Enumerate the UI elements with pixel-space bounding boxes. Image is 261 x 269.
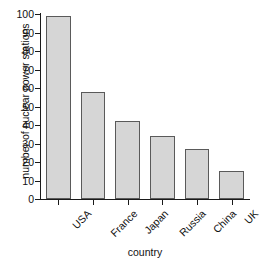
x-axis-label-uk: UK bbox=[242, 208, 260, 226]
bar-usa bbox=[46, 16, 71, 199]
y-axis-tick bbox=[35, 125, 41, 126]
x-axis-label-japan: Japan bbox=[142, 208, 170, 236]
bar-russia bbox=[150, 136, 175, 199]
x-axis-tick bbox=[58, 200, 59, 205]
y-axis-tick-label: 50 bbox=[1, 102, 34, 113]
y-axis-tick bbox=[35, 51, 41, 52]
x-axis-tick bbox=[128, 200, 129, 205]
x-axis-title: country bbox=[41, 246, 249, 258]
x-axis-label-russia: Russia bbox=[178, 208, 208, 238]
y-axis-tick-label: 90 bbox=[1, 28, 34, 39]
x-axis-tick bbox=[93, 200, 94, 205]
bar-uk bbox=[219, 171, 244, 199]
bar-france bbox=[81, 92, 106, 199]
x-axis-tick bbox=[162, 200, 163, 205]
y-axis-tick bbox=[35, 14, 41, 15]
y-axis-tick bbox=[35, 33, 41, 34]
y-axis-tick-label: 0 bbox=[1, 194, 34, 205]
y-axis-tick-label: 100 bbox=[1, 9, 34, 20]
y-axis-tick-label: 70 bbox=[1, 65, 34, 76]
x-axis-label-china: China bbox=[211, 208, 238, 235]
bar-china bbox=[185, 149, 210, 199]
y-axis-tick bbox=[35, 144, 41, 145]
bar-japan bbox=[115, 121, 140, 199]
y-axis-tick-labels: 0102030405060708090100 bbox=[0, 0, 34, 269]
y-axis-tick-label: 20 bbox=[1, 157, 34, 168]
y-axis-tick-label: 40 bbox=[1, 120, 34, 131]
y-axis-tick bbox=[35, 88, 41, 89]
y-axis-tick-label: 60 bbox=[1, 83, 34, 94]
plot-area bbox=[41, 14, 249, 199]
y-axis-tick-label: 30 bbox=[1, 139, 34, 150]
x-axis-tick bbox=[232, 200, 233, 205]
y-axis-tick bbox=[35, 199, 41, 200]
y-axis-tick bbox=[35, 70, 41, 71]
x-axis-label-usa: USA bbox=[71, 208, 94, 231]
y-axis-tick bbox=[35, 107, 41, 108]
y-axis-tick bbox=[35, 181, 41, 182]
x-axis-tick bbox=[197, 200, 198, 205]
x-axis-label-france: France bbox=[109, 208, 140, 239]
bar-chart: number of nuclear power stations 0102030… bbox=[0, 0, 261, 269]
y-axis-tick bbox=[35, 162, 41, 163]
y-axis-tick-label: 80 bbox=[1, 46, 34, 57]
y-axis-tick-label: 10 bbox=[1, 176, 34, 187]
x-axis-line bbox=[40, 199, 250, 200]
